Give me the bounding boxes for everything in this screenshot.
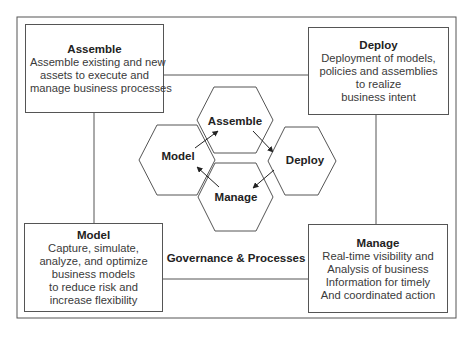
box-assemble-line: manage business processes <box>30 82 159 95</box>
hexagon-label-deploy: Deploy <box>286 154 324 166</box>
box-model-title: Model <box>29 228 158 242</box>
box-model-line: Capture, simulate, <box>29 242 158 255</box>
box-manage-line: Analysis of business <box>313 263 443 276</box>
box-model-line: business models <box>29 268 158 281</box>
box-assemble-line: Assemble existing and new <box>30 56 159 69</box>
box-model: Model Capture, simulate, analyze, and op… <box>24 223 163 312</box>
governance-label: Governance & Processes <box>167 252 306 264</box>
box-model-line: analyze, and optimize <box>29 255 158 268</box>
hexagon-label-assemble: Assemble <box>208 115 262 127</box>
box-deploy-line: business intent <box>313 91 444 104</box>
box-model-line: increase flexibility <box>29 294 158 307</box>
lifecycle-diagram: Assemble Model Deploy Manage Governance … <box>0 0 472 338</box>
box-deploy-title: Deploy <box>313 38 444 52</box>
box-deploy: Deploy Deployment of models, policies an… <box>308 27 449 115</box>
hexagon-label-model: Model <box>161 150 194 162</box>
box-manage-line: And coordinated action <box>313 289 443 302</box>
box-assemble-title: Assemble <box>30 42 159 56</box>
box-deploy-line: to realize <box>313 78 444 91</box>
box-manage-line: Information for timely <box>313 276 443 289</box>
box-manage: Manage Real-time visibility and Analysis… <box>308 224 448 313</box>
box-deploy-line: policies and assemblies <box>313 65 444 78</box>
box-manage-title: Manage <box>313 236 443 250</box>
box-model-line: to reduce risk and <box>29 281 158 294</box>
box-assemble: Assemble Assemble existing and new asset… <box>25 24 164 113</box>
box-deploy-line: Deployment of models, <box>313 52 444 65</box>
box-assemble-line: assets to execute and <box>30 69 159 82</box>
hexagon-label-manage: Manage <box>215 191 258 203</box>
box-manage-line: Real-time visibility and <box>313 250 443 263</box>
